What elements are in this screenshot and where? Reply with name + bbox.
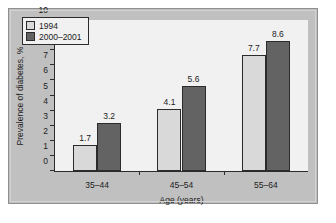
y-tick-label-5: 5	[43, 81, 48, 91]
y-tick-3	[50, 125, 55, 126]
y-tick-1	[50, 155, 55, 156]
figure-panel: Prevalence of diabetes, % 0 1 2 3 4 5 6 …	[8, 8, 318, 204]
value-label-1994-55-64: 7.7	[242, 43, 266, 53]
legend-swatch-1994	[26, 21, 35, 30]
bar-1994-45-54	[157, 109, 181, 171]
y-tick-label-7: 7	[43, 50, 48, 60]
legend-item-2000-2001: 2000–2001	[26, 31, 82, 42]
legend: 1994 2000–2001	[22, 17, 89, 45]
x-tick-label-35-44: 35–44	[85, 180, 109, 190]
x-axis-label: Age (years)	[160, 195, 204, 205]
x-tick-separator-0	[139, 171, 140, 175]
legend-swatch-2000-2001	[26, 32, 35, 41]
y-tick-label-10: 10	[39, 5, 48, 15]
y-tick-2	[50, 140, 55, 141]
y-tick-label-2: 2	[43, 126, 48, 136]
legend-label-1994: 1994	[39, 21, 58, 31]
y-axis-label: Prevalence of diabetes, %	[15, 47, 25, 146]
y-tick-5	[50, 95, 55, 96]
y-tick-label-3: 3	[43, 111, 48, 121]
bar-2000-2001-55-64	[266, 41, 290, 171]
y-tick-6	[50, 79, 55, 80]
y-tick-label-0: 0	[43, 156, 48, 166]
bar-2000-2001-45-54	[182, 86, 206, 171]
x-tick-separator-1	[224, 171, 225, 175]
x-tick-label-55-64: 55–64	[254, 180, 278, 190]
bar-2000-2001-35-44	[97, 123, 121, 171]
y-tick-8	[50, 49, 55, 50]
bar-1994-35-44	[73, 145, 97, 171]
value-label-2000-2001-35-44: 3.2	[97, 111, 121, 121]
bar-1994-55-64	[242, 55, 266, 171]
y-tick-4	[50, 110, 55, 111]
y-tick-label-1: 1	[43, 141, 48, 151]
y-tick-label-4: 4	[43, 96, 48, 106]
legend-item-1994: 1994	[26, 20, 82, 31]
value-label-1994-45-54: 4.1	[157, 97, 181, 107]
y-tick-label-6: 6	[43, 65, 48, 75]
value-label-1994-35-44: 1.7	[73, 133, 97, 143]
x-tick-label-45-54: 45–54	[170, 180, 194, 190]
y-tick-7	[50, 64, 55, 65]
value-label-2000-2001-55-64: 8.6	[266, 29, 290, 39]
value-label-2000-2001-45-54: 5.6	[182, 74, 206, 84]
y-tick-0	[50, 170, 55, 171]
legend-label-2000-2001: 2000–2001	[39, 32, 82, 42]
plot-area: 0 1 2 3 4 5 6 7 8 9 10 1.7 3.2 4.1 5.6 7…	[54, 20, 308, 172]
